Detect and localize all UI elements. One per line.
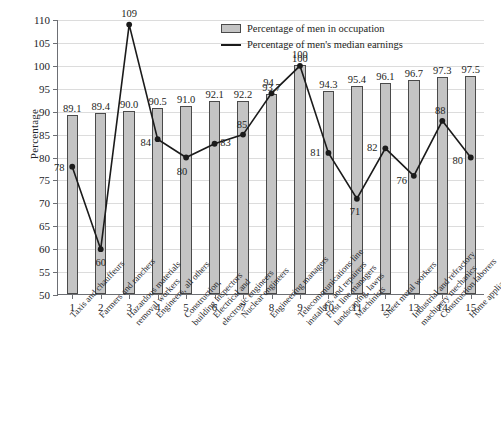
y-tick-label: 50: [39, 289, 50, 301]
y-tick-label: 100: [34, 60, 51, 72]
category-labels: Taxis and chauffeursFarmers and ranchers…: [0, 305, 501, 425]
legend-item-line: Percentage of men's median earnings: [221, 38, 483, 51]
y-tick-label: 70: [39, 197, 50, 209]
y-tick-label: 85: [39, 129, 50, 141]
x-tick-mark: [385, 294, 386, 299]
y-tick-label: 60: [39, 243, 50, 255]
x-tick-mark: [471, 294, 472, 299]
y-tick-mark: [53, 203, 58, 204]
y-tick-mark: [53, 295, 58, 296]
axis-ticks: 5055606570758085909510010511012345678910…: [58, 20, 484, 294]
y-tick-mark: [53, 89, 58, 90]
y-tick-label: 75: [39, 174, 50, 186]
y-tick-mark: [53, 249, 58, 250]
y-tick-mark: [53, 226, 58, 227]
y-tick-label: 90: [39, 106, 50, 118]
plot-area: 89.189.490.090.591.092.192.293.710094.39…: [57, 20, 484, 295]
chart-legend: Percentage of men in occupation Percenta…: [221, 22, 483, 54]
y-tick-label: 80: [39, 152, 50, 164]
x-tick-mark: [414, 294, 415, 299]
y-tick-label: 110: [34, 14, 50, 26]
legend-label-bars: Percentage of men in occupation: [247, 23, 385, 34]
y-tick-mark: [53, 20, 58, 21]
y-tick-label: 105: [34, 37, 51, 49]
y-tick-label: 55: [39, 266, 50, 278]
y-tick-mark: [53, 158, 58, 159]
x-tick-mark: [101, 294, 102, 299]
x-tick-mark: [72, 294, 73, 299]
y-tick-mark: [53, 66, 58, 67]
bar-swatch-icon: [221, 24, 241, 33]
x-tick-mark: [300, 294, 301, 299]
y-tick-mark: [53, 180, 58, 181]
x-tick-mark: [272, 294, 273, 299]
legend-label-line: Percentage of men's median earnings: [247, 39, 403, 50]
y-tick-label: 95: [39, 83, 50, 95]
y-tick-mark: [53, 272, 58, 273]
y-tick-mark: [53, 43, 58, 44]
line-swatch-icon: [221, 44, 241, 46]
line-value-label: 109: [121, 7, 137, 18]
legend-item-bars: Percentage of men in occupation: [221, 22, 483, 35]
y-tick-mark: [53, 135, 58, 136]
chart-figure: Percentage 89.189.490.090.591.092.192.29…: [0, 0, 501, 425]
x-tick-mark: [186, 294, 187, 299]
y-tick-mark: [53, 112, 58, 113]
y-tick-label: 65: [39, 220, 50, 232]
x-tick-mark: [129, 294, 130, 299]
